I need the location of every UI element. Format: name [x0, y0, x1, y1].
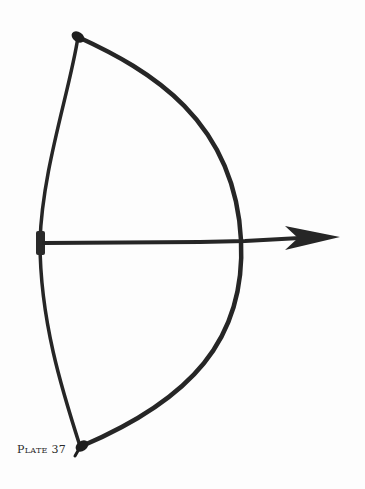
plate-caption: Plate 37	[17, 443, 66, 456]
arrow-icon	[44, 226, 340, 250]
bow-and-arrow-illustration	[0, 0, 365, 489]
